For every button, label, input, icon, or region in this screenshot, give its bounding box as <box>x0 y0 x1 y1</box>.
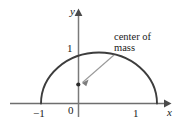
x-tick-label-one: 1 <box>133 108 139 120</box>
center-of-mass-point <box>76 82 80 86</box>
y-axis-label: y <box>70 6 75 18</box>
y-axis <box>75 9 83 118</box>
annotation-line-1: center of <box>114 31 151 42</box>
y-axis-arrowhead <box>75 9 83 17</box>
annotation-leader <box>82 55 114 86</box>
origin-label: 0 <box>68 105 74 117</box>
figure-canvas <box>0 0 181 134</box>
semicircle-curve <box>41 53 157 104</box>
y-tick-label-1: 1 <box>67 43 73 55</box>
leader-line <box>83 55 115 83</box>
x-tick-label-negative-one: −1 <box>33 108 45 120</box>
annotation-line-2: mass <box>114 42 151 53</box>
x-axis-label: x <box>167 107 172 119</box>
center-of-mass-annotation: center of mass <box>114 31 151 53</box>
semicircle-center-of-mass-figure: y x 1 0 −1 1 center of mass <box>0 0 181 134</box>
